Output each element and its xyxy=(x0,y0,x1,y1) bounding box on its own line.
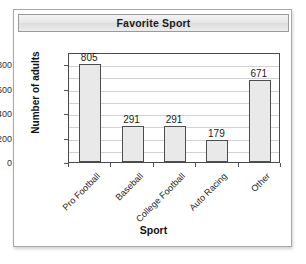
x-category-label: Baseball xyxy=(113,171,144,202)
y-tick-label: 800 xyxy=(0,60,12,70)
chart-card: Favorite Sport Number of adults 02004006… xyxy=(13,9,292,247)
x-tick-mark xyxy=(280,163,281,167)
x-tick-mark xyxy=(153,163,154,167)
y-tick-label: 600 xyxy=(0,85,12,95)
bar-value-label: 671 xyxy=(229,68,289,79)
x-tick-mark xyxy=(68,163,69,167)
x-tick-mark xyxy=(195,163,196,167)
chart-body: Number of adults 0200400600800 805291291… xyxy=(14,32,293,246)
x-category-label: Auto Racing xyxy=(188,171,230,213)
chart-title-bar: Favorite Sport xyxy=(18,14,289,32)
bar-value-label: 179 xyxy=(186,128,246,139)
x-axis-title: Sport xyxy=(14,224,293,236)
y-tick-label: 0 xyxy=(0,158,12,168)
bar xyxy=(249,80,271,162)
bar-value-label: 291 xyxy=(144,114,204,125)
x-tick-mark xyxy=(238,163,239,167)
x-category-label: Pro Football xyxy=(61,171,102,212)
y-tick-label: 400 xyxy=(0,109,12,119)
bar xyxy=(122,126,144,162)
y-axis-title: Number of adults xyxy=(30,38,41,148)
bar-value-label: 805 xyxy=(59,52,119,63)
x-category-label: Other xyxy=(249,171,272,194)
y-tick-label: 200 xyxy=(0,134,12,144)
chart-title: Favorite Sport xyxy=(117,17,191,29)
bar xyxy=(164,126,186,162)
bar xyxy=(79,64,101,162)
bar xyxy=(206,140,228,162)
x-tick-mark xyxy=(110,163,111,167)
